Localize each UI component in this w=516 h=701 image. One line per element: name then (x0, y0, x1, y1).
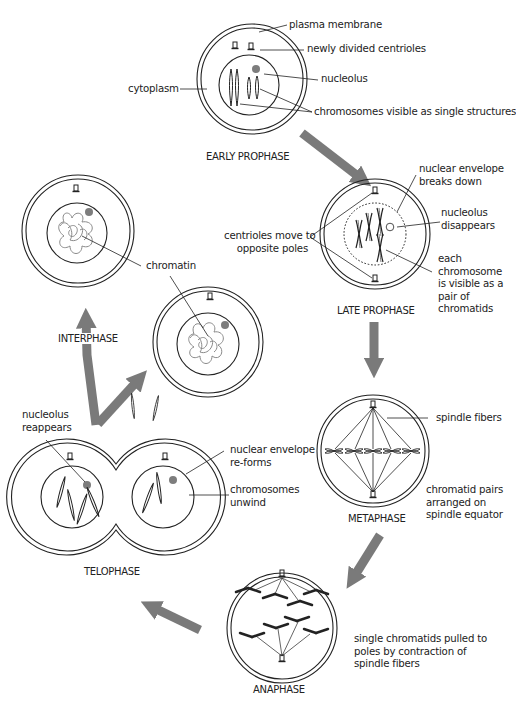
label-cytoplasm: cytoplasm (128, 83, 179, 96)
label-line: chromosome (438, 266, 503, 279)
label-line: chromatid pairs (426, 484, 503, 497)
label-line: centrioles move to (224, 230, 308, 243)
label-line: is visible as a (438, 278, 503, 291)
label-line: unwind (230, 497, 299, 510)
label-single-chromatids: single chromatids pulled to poles by con… (354, 633, 487, 671)
arrow-metaphase-to-anaphase (352, 535, 380, 580)
label-line: nucleolus (441, 207, 495, 220)
label-line: nucleolus (22, 409, 72, 422)
label-line: re-forms (230, 457, 315, 470)
arrow-early-to-late-prophase (302, 133, 363, 180)
stage-late-prophase: LATE PROPHASE (337, 305, 414, 316)
label-centrioles-move: centrioles move to opposite poles (224, 230, 308, 255)
interphase-cell-bottom (153, 276, 263, 397)
label-line: chromatids (438, 303, 503, 316)
stage-metaphase: METAPHASE (348, 513, 405, 524)
label-plasma-membrane: plasma membrane (289, 19, 382, 32)
label-line: spindle fibers (354, 658, 487, 671)
label-line: each (438, 253, 503, 266)
label-line: chromosomes (230, 484, 299, 497)
stage-anaphase: ANAPHASE (253, 684, 305, 695)
metaphase-cell (317, 395, 429, 507)
label-line: breaks down (419, 176, 504, 189)
arrow-anaphase-to-telophase (150, 606, 200, 630)
label-line: disappears (441, 220, 495, 233)
label-chromosomes-single: chromosomes visible as single structures (314, 106, 516, 119)
early-prophase-cell (180, 24, 318, 134)
label-nucleolus-reappears: nucleolus reappears (22, 409, 72, 434)
late-prophase-cell (310, 175, 440, 289)
stage-telophase: TELOPHASE (84, 566, 140, 577)
label-chromatin: chromatin (146, 260, 196, 273)
label-spindle-fibers: spindle fibers (436, 412, 502, 425)
label-nucleolus-disappears: nucleolus disappears (441, 207, 495, 232)
stage-interphase: INTERPHASE (58, 333, 118, 344)
cycle-arrows (86, 133, 380, 630)
label-line: arranged on (426, 497, 503, 510)
interphase-cell-top (22, 175, 141, 287)
label-line: opposite poles (224, 243, 308, 256)
label-line: spindle equator (426, 509, 503, 522)
stage-early-prophase: EARLY PROPHASE (206, 151, 289, 162)
label-line: nuclear envelope (419, 163, 504, 176)
anaphase-cell (227, 570, 337, 683)
label-chromatid-pairs-arranged: chromatid pairs arranged on spindle equa… (426, 484, 503, 522)
label-line: nuclear envelope (230, 444, 315, 457)
label-nucleolus: nucleolus (321, 73, 368, 86)
label-line: single chromatids pulled to (354, 633, 487, 646)
label-line: reappears (22, 422, 72, 435)
label-line: pair of (438, 291, 503, 304)
label-chromosomes-unwind: chromosomes unwind (230, 484, 299, 509)
label-line: poles by contraction of (354, 646, 487, 659)
label-chromatid-pair: each chromosome is visible as a pair of … (438, 253, 503, 316)
label-newly-divided-centrioles: newly divided centrioles (307, 43, 426, 56)
label-nuclear-envelope-breaks: nuclear envelope breaks down (419, 163, 504, 188)
label-nuclear-envelope-reforms: nuclear envelope re-forms (230, 444, 315, 469)
